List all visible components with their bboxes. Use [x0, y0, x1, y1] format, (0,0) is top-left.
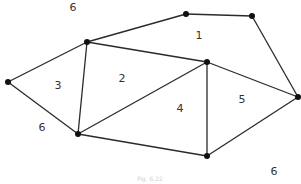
vertex-G	[75, 131, 81, 137]
region-label-6: 6	[39, 121, 46, 134]
graph-canvas	[0, 0, 301, 184]
vertex-F	[204, 59, 210, 65]
vertex-A	[5, 79, 11, 85]
vertex-B	[84, 39, 90, 45]
vertex-D	[249, 13, 255, 19]
region-label-6: 6	[271, 165, 278, 178]
edge-H-E	[207, 97, 298, 156]
edge-C-D	[186, 14, 252, 16]
edge-B-G	[78, 42, 87, 134]
vertex-H	[204, 153, 210, 159]
edge-A-B	[8, 42, 87, 82]
edge-F-E	[207, 62, 298, 97]
region-label-1: 1	[196, 29, 203, 42]
edge-D-E	[252, 16, 298, 97]
region-label-5: 5	[239, 93, 246, 106]
region-label-2: 2	[119, 72, 126, 85]
edge-G-F	[78, 62, 207, 134]
edge-B-C	[87, 14, 186, 42]
region-label-4: 4	[177, 102, 184, 115]
edge-B-F	[87, 42, 207, 62]
region-label-6: 6	[70, 1, 77, 14]
region-label-3: 3	[55, 79, 62, 92]
vertex-C	[183, 11, 189, 17]
figure-caption: Fig. 6.22	[137, 175, 163, 182]
edge-G-H	[78, 134, 207, 156]
vertex-E	[295, 94, 301, 100]
